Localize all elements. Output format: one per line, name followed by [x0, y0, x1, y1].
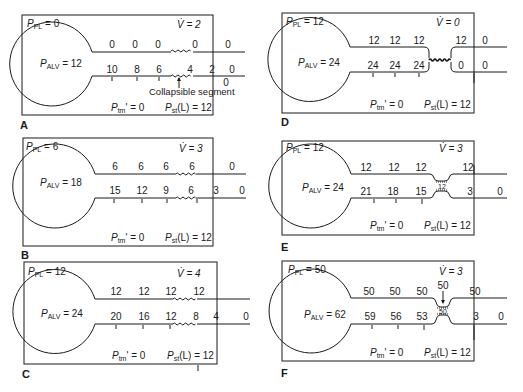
inside-pressure: 24: [389, 61, 400, 71]
inside-pressure: 53: [416, 312, 427, 322]
outside-pressure: 12: [389, 36, 400, 46]
inside-pressure: 0: [498, 312, 504, 322]
static-recoil-label: Pst(L) = 12: [165, 233, 212, 244]
pleural-pressure-label: PPL = 50: [288, 265, 326, 276]
panel-letter: C: [22, 369, 30, 380]
outside-pressure: 12: [165, 287, 176, 297]
pleural-pressure-label: PPL = 12: [286, 17, 324, 28]
flow-label: V̇ = 3: [439, 144, 463, 154]
outside-pressure: 12: [455, 36, 466, 46]
panel-c: PPL = 12 V̇ = 4 PALV = 24 12 12 12 12 20…: [0, 255, 250, 380]
panel-letter: F: [281, 368, 288, 379]
outside-pressure: 0: [155, 40, 161, 50]
inside-pressure: 2: [209, 65, 215, 75]
outside-pressure: 12: [368, 36, 379, 46]
pleural-pressure-label: PPL = 6: [26, 142, 58, 153]
outside-pressure: 12: [388, 163, 399, 173]
inside-pressure: 8: [134, 65, 140, 75]
inside-pressure: 10: [106, 65, 117, 75]
alveolar-pressure-label: PALV = 24: [298, 58, 340, 69]
inside-pressure: 9: [163, 186, 169, 196]
outside-pressure: 6: [163, 162, 169, 172]
inside-pressure: 0: [229, 65, 235, 75]
outside-pressure: 0: [192, 40, 198, 50]
static-recoil-label: Pst(L) = 12: [424, 348, 471, 359]
alveolar-pressure-label: PALV = 24: [41, 309, 83, 320]
alveolar-pressure-label: PALV = 12: [40, 59, 82, 70]
inside-pressure: 3: [467, 187, 473, 197]
flow-label: V̇ = 3: [179, 144, 203, 154]
collapsible-segment-annotation: Collapsible segment: [149, 87, 235, 97]
inside-pressure: 0: [458, 61, 464, 71]
static-recoil-label: Pst(L) = 12: [424, 100, 471, 111]
alveolar-pressure-label: PALV = 62: [304, 310, 346, 321]
flow-label: V̇ = 3: [439, 267, 463, 277]
inside-pressure: 20: [110, 312, 121, 322]
inside-pressure: 8: [193, 312, 199, 322]
outside-pressure: 50: [437, 281, 448, 291]
inside-pressure: 4: [213, 312, 219, 322]
inside-pressure: 16: [138, 312, 149, 322]
inside-pressure: 0: [482, 61, 488, 71]
static-recoil-label: Pst(L) = 12: [165, 103, 212, 114]
transmural-pressure-label: Ptm' = 0: [112, 351, 145, 362]
outside-pressure: 0: [229, 162, 235, 172]
outside-pressure: 6: [189, 162, 195, 172]
transmural-pressure-label: Ptm' = 0: [111, 103, 144, 114]
static-recoil-label: Pst(L) = 12: [167, 351, 214, 362]
outside-pressure: 12: [413, 36, 424, 46]
pleural-pressure-label: PPL = 12: [28, 267, 66, 278]
flow-label: V̇ = 2: [177, 20, 201, 30]
inside-pressure: 21: [360, 187, 371, 197]
outside-pressure: 50: [469, 287, 480, 297]
inside-pressure: 3: [473, 312, 479, 322]
inside-pressure: 15: [109, 186, 120, 196]
static-recoil-label: Pst(L) = 12: [424, 221, 471, 232]
inside-pressure: 15: [415, 187, 426, 197]
outside-pressure: 12: [360, 163, 371, 173]
transmural-pressure-label: Ptm' = 0: [370, 221, 403, 232]
flow-label: V̇ = 0: [436, 18, 460, 28]
outside-pressure: 50: [389, 287, 400, 297]
closed-segment: [429, 59, 451, 61]
alveolar-pressure-label: PALV = 24: [302, 183, 344, 194]
inside-pressure: 6: [156, 65, 162, 75]
transmural-pressure-label: Ptm' = 0: [370, 348, 403, 359]
transmural-pressure-label: Ptm' = 0: [370, 100, 403, 111]
inside-pressure: 18: [387, 187, 398, 197]
outside-pressure: 0: [225, 40, 231, 50]
inside-pressure: 4: [187, 65, 193, 75]
panel-e: PPL = 12 V̇ = 3 PALV = 24 12 12 12 12 21…: [262, 125, 512, 250]
pleural-pressure-label: PPL = 12: [286, 143, 324, 154]
inside-pressure: 24: [367, 61, 378, 71]
outside-pressure: 50: [363, 287, 374, 297]
panel-d: PPL = 12 V̇ = 0 PALV = 24 12 12 12 12 0 …: [262, 0, 512, 125]
panel-f: PPL = 50 V̇ = 3 PALV = 62 50 50 50 50 50…: [262, 255, 512, 380]
inside-pressure: 56: [390, 312, 401, 322]
outside-pressure: 6: [138, 162, 144, 172]
outside-pressure: 12: [193, 287, 204, 297]
inside-pressure: 0: [243, 312, 249, 322]
inside-pressure: 24: [413, 61, 424, 71]
inside-pressure: 6: [188, 186, 194, 196]
panel-a: PPL = 0 V̇ = 2 PALV = 12 0 0 0 0 0 10 8 …: [0, 0, 250, 125]
outside-pressure: 0: [132, 40, 138, 50]
transmural-pressure-label: Ptm' = 0: [111, 233, 144, 244]
outside-pressure: 0: [109, 40, 115, 50]
constriction-pressure: 12: [438, 183, 446, 190]
alveolar-pressure-label: PALV = 18: [40, 178, 82, 189]
outside-pressure: 12: [415, 163, 426, 173]
panel-b: PPL = 6 V̇ = 3 PALV = 18 6 6 6 6 0 15 12…: [0, 128, 250, 253]
pleural-pressure-label: PPL = 0: [27, 19, 59, 30]
flow-label: V̇ = 4: [177, 269, 201, 279]
outside-pressure: 12: [110, 287, 121, 297]
outside-pressure: 12: [138, 287, 149, 297]
outside-pressure: 50: [416, 287, 427, 297]
constriction-pressure: 50: [439, 308, 447, 315]
inside-pressure: 59: [364, 312, 375, 322]
inside-pressure: 12: [165, 312, 176, 322]
inside-pressure: 0: [239, 186, 245, 196]
outside-pressure: 12: [462, 163, 473, 173]
panel-letter: E: [281, 242, 288, 253]
inside-pressure: 0: [497, 187, 503, 197]
